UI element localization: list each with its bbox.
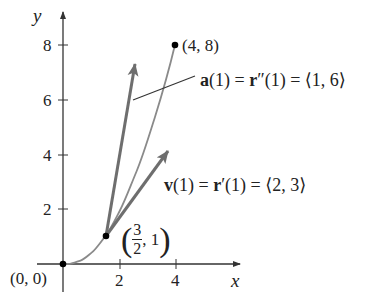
y-tick-label-8: 8 <box>43 37 52 54</box>
point-four-eight <box>172 42 179 49</box>
point-three-halves-label: (32, 1) <box>121 222 171 257</box>
open-paren: ( <box>121 221 132 258</box>
vector-function-diagram: y x 8 6 4 2 2 4 (0, 0) (4, 8) (32, 1) a(… <box>0 0 382 299</box>
position-symbol: r <box>249 70 257 90</box>
end-point-label: (4, 8) <box>182 37 219 54</box>
acceleration-equation: a(1) = r″(1) = ⟨1, 6⟩ <box>200 71 346 89</box>
velocity-eq-part2: ′(1) = ⟨2, 3⟩ <box>221 175 306 195</box>
fraction-three-halves: 32 <box>132 222 142 257</box>
acceleration-leader-line <box>133 76 195 100</box>
velocity-eq-part1: (1) = <box>173 175 213 195</box>
x-tick-label-2: 2 <box>115 272 124 289</box>
position-symbol: r <box>213 175 221 195</box>
y-tick-label-6: 6 <box>43 92 52 109</box>
y-axis-label: y <box>33 6 41 25</box>
y-tick-label-4: 4 <box>43 147 52 164</box>
origin-label: (0, 0) <box>10 270 47 287</box>
x-axis-label: x <box>231 271 239 290</box>
point-three-halves-one <box>103 233 110 240</box>
acceleration-eq-part1: (1) = <box>209 70 249 90</box>
x-tick-label-4: 4 <box>171 272 180 289</box>
point-y-coordinate: , 1 <box>142 230 159 249</box>
velocity-symbol: v <box>164 175 173 195</box>
close-paren: ) <box>159 221 170 258</box>
fraction-denominator: 2 <box>132 240 142 257</box>
acceleration-eq-part2: ″(1) = ⟨1, 6⟩ <box>257 70 346 90</box>
velocity-equation: v(1) = r′(1) = ⟨2, 3⟩ <box>164 176 306 194</box>
origin-point <box>60 261 67 268</box>
acceleration-symbol: a <box>200 70 209 90</box>
y-tick-label-2: 2 <box>43 201 52 218</box>
fraction-numerator: 3 <box>132 222 142 240</box>
